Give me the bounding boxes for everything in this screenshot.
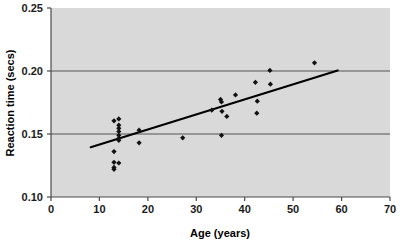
y-axis-title: Reaction time (secs) (4, 49, 16, 156)
y-tick-label: 0.20 (22, 65, 43, 77)
y-tick-label: 0.15 (22, 128, 43, 140)
x-tick-label: 70 (384, 203, 396, 215)
chart-canvas: 010203040506070 0.100.150.200.25 Age (ye… (0, 0, 407, 246)
y-tick-label: 0.25 (22, 2, 43, 14)
y-tick-label: 0.10 (22, 191, 43, 203)
x-tick-label: 10 (93, 203, 105, 215)
x-tick-label: 0 (48, 203, 54, 215)
x-tick-label: 20 (142, 203, 154, 215)
x-axis-title: Age (years) (190, 227, 250, 239)
x-tick-label: 50 (287, 203, 299, 215)
x-tick-label: 40 (239, 203, 251, 215)
x-tick-label: 60 (335, 203, 347, 215)
x-tick-label: 30 (190, 203, 202, 215)
scatter-chart: 010203040506070 0.100.150.200.25 Age (ye… (0, 0, 407, 246)
